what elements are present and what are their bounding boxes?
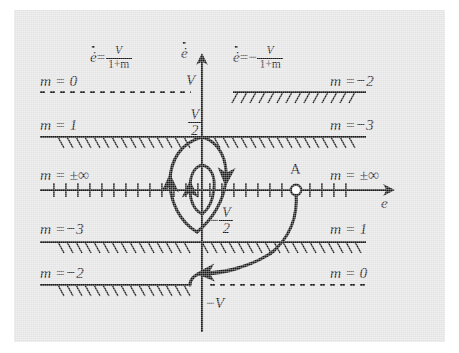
e-dot-axis-label: ė — [181, 46, 188, 61]
tick-neg-V-over-2-fraction: V2 — [219, 205, 233, 236]
tick-neg-V-over-2-denominator: 2 — [219, 220, 233, 236]
line-neg-half-V-right-label: m = 1 — [330, 221, 367, 237]
line-neg-V-right-label: m = 0 — [330, 265, 367, 281]
line-neg-half-V-left-label: m =−3 — [40, 221, 84, 237]
equation-right: ė=−V1+m — [233, 46, 284, 72]
line-V-right-label: m =−2 — [330, 73, 374, 89]
equation-left-numerator: V — [106, 45, 132, 57]
line-V-left-label: m = 0 — [40, 73, 77, 89]
tick-V-label: V — [186, 73, 195, 88]
line-zero-left-label: m = ±∞ — [40, 167, 89, 183]
line-neg-half-V-hatching — [58, 242, 361, 253]
inner-cycle-arc-top-right — [202, 165, 214, 188]
equation-right-lhs: ė — [233, 50, 240, 65]
figure-panel: ė=V1+m ė=−V1+m ė e V V2 −V2 −V A m = … — [14, 10, 445, 342]
inner-cycle-arc-bottom-left — [190, 188, 202, 214]
equation-left-eq: = — [97, 49, 105, 65]
trajectory-a-lower-arc — [204, 251, 274, 273]
line-half-V-left-label: m = 1 — [40, 117, 77, 133]
line-neg-V-left-label: m =−2 — [40, 265, 84, 281]
figure-page: ė=V1+m ė=−V1+m ė e V V2 −V2 −V A m = … — [0, 0, 459, 353]
point-a-label: A — [290, 162, 301, 177]
tick-V-over-2-fraction: V2 — [188, 107, 202, 138]
line-zero-right-label: m = ±∞ — [330, 167, 379, 183]
outer-cycle-arc-top-right — [202, 137, 226, 178]
equation-left: ė=V1+m — [90, 46, 132, 72]
trajectory-a-terminus — [190, 274, 202, 285]
tick-neg-V-label: −V — [205, 296, 224, 311]
tick-V-over-2-label: V2 — [187, 108, 203, 139]
line-V-hatching — [232, 92, 355, 103]
tick-V-over-2-denominator: 2 — [188, 122, 202, 138]
equation-right-eq: = — [240, 49, 248, 65]
tick-neg-V-over-2-numerator: V — [219, 205, 233, 220]
trajectory-a-tail — [202, 268, 239, 274]
trajectory-a-upper-arc — [270, 192, 296, 254]
equation-left-lhs: ė — [90, 50, 97, 65]
equation-right-fraction: V1+m — [257, 45, 283, 71]
point-a-marker[interactable] — [291, 185, 301, 195]
equation-right-denominator: 1+m — [257, 58, 283, 71]
e-dot-axis-label-text: ė — [181, 46, 188, 61]
line-neg-V-hatching — [58, 285, 190, 296]
inner-cycle-arc-top-left — [190, 165, 202, 188]
tick-neg-V-over-2-label: −V2 — [210, 206, 234, 237]
equation-right-sign: − — [248, 49, 256, 65]
outer-cycle-arc-top-left — [170, 137, 202, 182]
equation-right-numerator: V — [257, 45, 283, 57]
e-axis-label: e — [381, 196, 388, 211]
trajectory-from-a — [190, 192, 296, 285]
tick-V-over-2-numerator: V — [188, 107, 202, 122]
equation-left-fraction: V1+m — [106, 45, 132, 71]
equation-left-denominator: 1+m — [106, 58, 132, 71]
tick-neg-V-over-2-sign: − — [210, 212, 218, 228]
line-zero-e-axis — [40, 183, 392, 197]
line-half-V-right-label: m =−3 — [330, 117, 374, 133]
